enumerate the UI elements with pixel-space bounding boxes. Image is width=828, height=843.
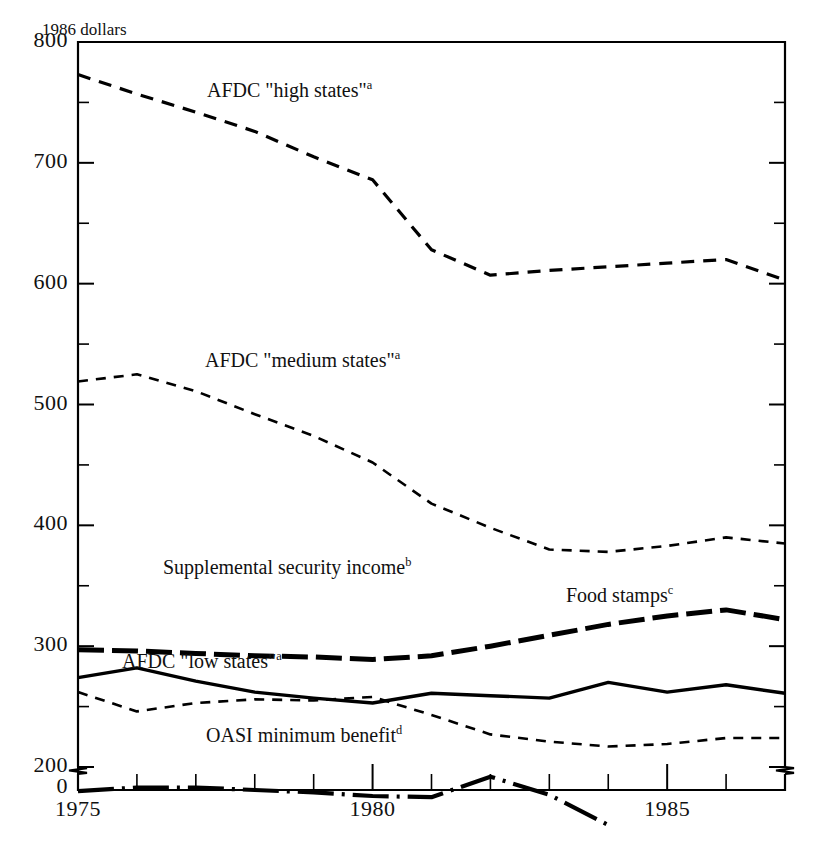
series-label-5: OASI minimum benefitd (206, 723, 402, 747)
footnote-marker: d (396, 723, 402, 737)
series-label-text: AFDC "medium states" (205, 349, 395, 371)
series-line-3 (78, 668, 785, 703)
series-line-1 (78, 374, 785, 552)
series-label-3: Food stampsc (566, 583, 673, 607)
footnote-marker: b (405, 555, 411, 569)
y-axis-break-right (776, 767, 794, 774)
series-label-0: AFDC "high states"a (207, 78, 372, 102)
chart-figure: 1986 dollars 2003004005006007008000 1975… (0, 0, 828, 843)
series-label-text: Food stamps (566, 584, 668, 606)
footnote-marker: a (276, 649, 282, 663)
series-line-0 (78, 75, 785, 280)
series-label-1: AFDC "medium states"a (205, 348, 400, 372)
footnote-marker: c (668, 583, 674, 597)
series-label-4: AFDC "low states"a (122, 649, 282, 673)
x-tick-label: 1985 (622, 796, 712, 822)
series-label-text: OASI minimum benefit (206, 724, 396, 746)
series-line-4 (78, 692, 785, 746)
y-tick-label: 300 (8, 631, 68, 657)
series-label-text: AFDC "high states" (207, 79, 367, 101)
chart-canvas (0, 0, 828, 843)
y-tick-label: 400 (8, 510, 68, 536)
series-label-text: AFDC "low states" (122, 650, 276, 672)
y-tick-label: 700 (8, 148, 68, 174)
footnote-marker: a (367, 78, 373, 92)
x-tick-label: 1980 (328, 796, 418, 822)
series-label-2: Supplemental security incomeb (163, 555, 411, 579)
x-tick-label: 1975 (33, 796, 123, 822)
footnote-marker: a (395, 348, 401, 362)
series-label-text: Supplemental security income (163, 556, 405, 578)
y-tick-label: 500 (8, 390, 68, 416)
y-tick-label: 600 (8, 269, 68, 295)
y-tick-label: 800 (8, 27, 68, 53)
